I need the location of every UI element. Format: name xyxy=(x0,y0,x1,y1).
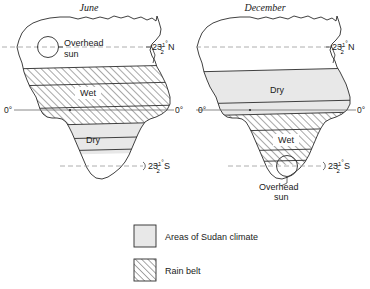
june-equator-label-left: 0° xyxy=(4,105,12,115)
june-capricorn-hemisphere: S xyxy=(164,161,170,171)
june-sudan-label-group: Dry xyxy=(86,135,100,145)
legend-item-sudan-climate: Areas of Sudan climate xyxy=(134,225,258,247)
june-tropic-of-capricorn-label: 231°S 2 xyxy=(143,159,170,174)
legend-item-rain-belt: Rain belt xyxy=(134,259,201,281)
december-rain-belt-label-group: Wet xyxy=(273,134,299,146)
june-capricorn-frac-den: 2 xyxy=(157,168,161,174)
december-overhead-sun-label-line2: sun xyxy=(274,192,289,202)
december-tropic-of-capricorn-label: 231°S 2 xyxy=(323,159,350,174)
december-overhead-sun-label-line1: Overhead xyxy=(259,182,299,192)
december-tropic-of-cancer-label: 231°N 2 xyxy=(326,40,354,55)
june-capricorn-leader xyxy=(143,162,145,170)
december-sudan-label-group: Dry xyxy=(270,85,284,95)
legend-sudan-climate-swatch xyxy=(134,225,156,247)
december-cancer-frac-den: 2 xyxy=(341,49,345,55)
legend-rain-belt-label: Rain belt xyxy=(165,266,201,276)
december-equator-label-left: 0° xyxy=(198,105,206,115)
june-cancer-hemisphere: N xyxy=(168,42,175,52)
june-map-title: June xyxy=(80,2,99,13)
december-capricorn-leader xyxy=(323,162,325,170)
december-capricorn-hemisphere: S xyxy=(344,161,350,171)
map-june: June Overhead sun 231°N 2 231°S 2 0° 0° xyxy=(2,2,183,179)
june-rain-belt-label: Wet xyxy=(80,88,96,98)
map-december: December Overhead sun 231°N 2 231°S 2 0°… xyxy=(190,2,365,202)
june-overhead-sun-circle xyxy=(38,37,59,58)
legend-rain-belt-swatch xyxy=(134,259,156,281)
legend-sudan-climate-label: Areas of Sudan climate xyxy=(165,232,258,242)
december-capricorn-frac-den: 2 xyxy=(337,168,341,174)
june-overhead-sun-label-line1: Overhead xyxy=(64,38,104,48)
june-cancer-frac-den: 2 xyxy=(161,49,165,55)
june-tropic-of-cancer-label: 231°N 2 xyxy=(146,40,174,55)
africa-rain-belt-diagram: June Overhead sun 231°N 2 231°S 2 0° 0° xyxy=(0,0,370,289)
december-sudan-zone-label: Dry xyxy=(270,85,284,95)
december-cancer-hemisphere: N xyxy=(348,42,355,52)
december-equator-label-right: 0° xyxy=(357,105,365,115)
june-overhead-sun-label-line2: sun xyxy=(64,49,79,59)
june-rain-belt-label-group: Wet xyxy=(75,87,101,99)
december-equator-marker xyxy=(249,109,251,111)
june-equator-marker xyxy=(69,109,71,111)
june-equator-label-right: 0° xyxy=(175,105,183,115)
december-map-title: December xyxy=(243,2,285,13)
december-rain-belt-label: Wet xyxy=(278,135,294,145)
legend: Areas of Sudan climate Rain belt xyxy=(134,225,258,281)
june-sudan-zone-label: Dry xyxy=(86,135,100,145)
